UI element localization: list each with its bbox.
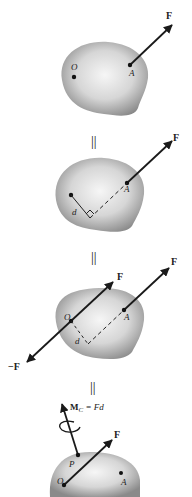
point-p-label: P xyxy=(68,459,75,469)
force-label: F xyxy=(173,132,179,143)
point-a-label: A xyxy=(120,477,127,487)
point-a-label: A xyxy=(123,184,130,194)
panel-3: F F −F O A d xyxy=(8,256,177,372)
force-couple-diagram: F O A || F A d || F F −F O A d || xyxy=(0,0,192,497)
point-a-dot xyxy=(119,471,123,475)
point-p-dot xyxy=(76,453,80,457)
neg-force-label: −F xyxy=(8,361,20,372)
force-label-o: F xyxy=(117,271,123,282)
force-label: F xyxy=(114,429,120,440)
panel-2: F A d xyxy=(56,132,180,232)
panel-1: F O A xyxy=(62,10,173,116)
point-o-label: O xyxy=(64,312,71,322)
force-arrow-f xyxy=(130,25,172,65)
point-o-dot xyxy=(72,75,76,79)
point-a-label: A xyxy=(128,68,135,78)
distance-label: d xyxy=(72,207,77,217)
panel-4: MC = Fd F P O A xyxy=(50,402,140,497)
rigid-body xyxy=(50,452,140,497)
force-arrow-f-at-a xyxy=(124,268,169,310)
point-a-label: A xyxy=(123,312,130,322)
distance-label: d xyxy=(75,336,80,346)
equivalence-sign: || xyxy=(90,380,96,395)
force-label: F xyxy=(166,10,172,21)
force-arrow-f xyxy=(127,141,172,183)
point-a-dot xyxy=(128,63,132,67)
force-label-a: F xyxy=(171,256,177,267)
equivalence-sign: || xyxy=(91,250,97,265)
moment-label: MC = Fd xyxy=(70,402,104,414)
equivalence-sign: || xyxy=(91,134,97,149)
point-o-label: O xyxy=(57,476,64,486)
point-o-label: O xyxy=(71,62,78,72)
